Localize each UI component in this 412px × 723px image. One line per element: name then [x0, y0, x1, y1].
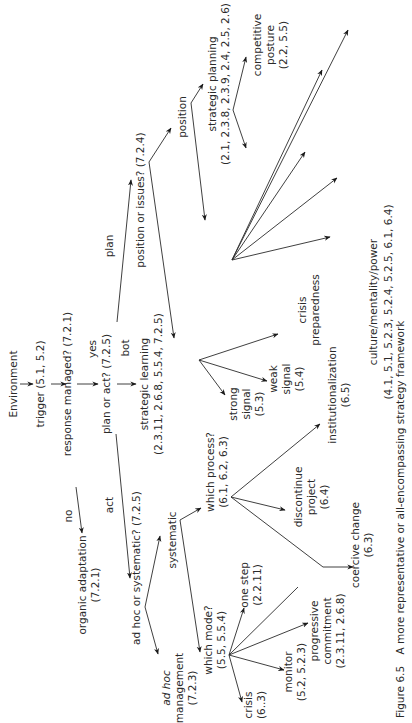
label-crisis-ref: (6..3): [255, 691, 267, 719]
label-adhoc-or-systematic: ad hoc or systematic? (7.2.5): [130, 491, 142, 645]
label-project: project: [305, 479, 317, 515]
arrow-to-adhoc: [145, 607, 158, 654]
label-progressive: progressive: [308, 601, 320, 662]
arrow-hub-strong: [199, 360, 225, 395]
label-culture: culture/mentality/power: [367, 238, 379, 365]
label-position: position: [176, 96, 188, 138]
label-strategic-planning: strategic planning: [206, 36, 218, 131]
arrow-position-label: [149, 128, 171, 162]
label-weak-ref: (5.4): [293, 367, 305, 392]
label-culture-ref: (4.1, 5.1, 5.2.3, 5.2.4, 5.2.5, 6.1, 6.4…: [382, 204, 394, 399]
label-commitment: commitment: [321, 597, 333, 664]
label-trigger: trigger (5.1, 5.2): [34, 340, 46, 427]
caption-label: Figure 6.5: [394, 666, 406, 718]
label-plan: plan: [103, 235, 115, 258]
label-which-process: which process?: [204, 432, 216, 512]
label-adhoc: ad hoc: [160, 670, 172, 706]
label-posture: posture: [264, 25, 276, 65]
label-institutionalization: institutionalization: [326, 346, 338, 443]
label-coercive-ref: (6.3): [362, 533, 374, 558]
label-one-step-ref: (2.2.11): [251, 564, 263, 606]
label-strategic-planning-ref: (2.1, 2.3.8, 2.3.9, 2.4, 2.5, 2.6): [219, 3, 231, 165]
label-organic-adaptation: organic adaptation: [76, 535, 88, 634]
arrow-mode-crisis: [229, 655, 242, 702]
label-discontinue-ref: (6.4): [318, 485, 330, 510]
label-systematic: systematic: [166, 511, 178, 568]
label-strategic-learning: strategic learning: [138, 338, 150, 430]
label-response-managed: response managed? (7.2.1): [61, 312, 73, 456]
label-which-process-ref: (6.1, 6.2, 6.3): [217, 436, 229, 508]
label-one-step: one step: [238, 562, 250, 608]
label-strategic-learning-ref: (2.3.11, 2.6.8, 5.5.4, 7.2.5): [152, 313, 164, 455]
label-adhoc-ref: (7.2.3): [186, 671, 198, 706]
label-organic-adaptation-ref: (7.2.1): [89, 568, 101, 603]
label-coercive-change: coercive change: [349, 502, 361, 588]
label-environment: Environment: [7, 350, 19, 417]
label-competitive: competitive: [251, 14, 263, 76]
label-competitive-ref: (2.2, 5.5): [277, 21, 289, 69]
arrow-issues-to-signals: [149, 162, 174, 338]
arrow-planning-down: [233, 110, 246, 148]
label-crisis: crisis: [242, 692, 254, 719]
arrow-mode-monitor: [229, 655, 284, 670]
arrow-planning-competitive: [233, 57, 246, 110]
label-bot: bot: [119, 339, 131, 356]
label-which-mode-ref: (5.5, 5.5.4): [215, 611, 227, 669]
label-preparedness: preparedness: [309, 274, 321, 346]
label-plan-or-act: plan or act? (7.2.5): [100, 334, 112, 434]
label-institutionalization-ref: (6.5): [339, 383, 351, 408]
label-act: act: [103, 497, 115, 513]
figure-caption: Figure 6.5 A more representative or all-…: [394, 320, 406, 718]
label-weak-signal: signal: [280, 363, 292, 394]
arrow-hub-weak: [199, 360, 267, 381]
strategy-framework-diagram: Environment trigger (5.1, 5.2) response …: [0, 0, 412, 723]
arrow-position-fan: [191, 103, 205, 220]
fan-line-2: [232, 152, 305, 260]
label-management: management: [173, 653, 185, 723]
fan-line-1: [232, 70, 322, 260]
labels: Environment trigger (5.1, 5.2) response …: [7, 3, 394, 723]
arrow-act-adhoc-systematic: [116, 434, 130, 578]
label-strong-ref: (5.3): [253, 392, 265, 417]
label-crisis-prep: crisis: [296, 297, 308, 324]
arrow-hub-crisis-prep: [199, 334, 278, 360]
label-yes: yes: [86, 340, 98, 358]
caption-text: A more representative or all-encompassin…: [394, 320, 406, 655]
label-strong: strong: [227, 387, 239, 420]
arrow-no-organic: [76, 487, 82, 533]
arrow-plan-position-issues: [117, 180, 131, 322]
label-weak: weak: [267, 364, 279, 392]
label-discontinue: discontinue: [292, 467, 304, 528]
label-position-or-issues: position or issues? (7.2.4): [134, 132, 146, 267]
label-monitor: monitor: [282, 651, 294, 693]
arrow-systematic-process: [180, 508, 201, 520]
label-monitor-ref: (5.2, 5.2.3): [295, 643, 307, 701]
label-progressive-ref: (2.3.11, 2.6.8): [334, 594, 346, 669]
fan-line-5: [232, 30, 348, 260]
arrow-position-planning: [191, 84, 203, 103]
label-which-mode: which mode?: [202, 605, 214, 674]
label-strong-signal: signal: [240, 388, 252, 419]
arrow-to-systematic: [145, 536, 160, 607]
arrow-systematic-mode: [180, 520, 200, 652]
label-no: no: [62, 509, 74, 522]
